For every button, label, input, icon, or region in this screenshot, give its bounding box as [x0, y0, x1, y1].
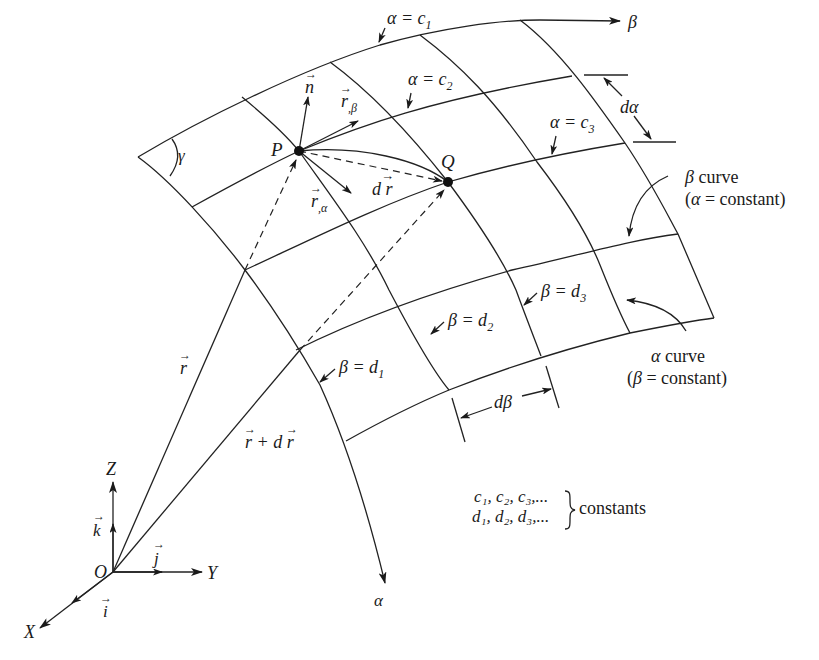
i-overarrow: →	[100, 591, 112, 605]
beta-d2-label: β = d2	[447, 310, 493, 334]
d-beta-extension-right	[546, 366, 559, 408]
beta-d1-label: β = d1	[338, 357, 384, 381]
alpha-curve-label-line2: (β = constant)	[627, 368, 727, 389]
point-p-label: P	[270, 139, 283, 160]
alpha-c2-label: α = c2	[408, 69, 453, 93]
alpha-curve-label-line1: α curve	[651, 346, 705, 366]
dr-overarrow: →	[381, 168, 394, 183]
d2-pointer-arrow	[431, 322, 444, 334]
normal-vector	[299, 97, 308, 151]
j-label: j	[152, 549, 159, 568]
c3-pointer-arrow	[552, 136, 556, 154]
z-axis-label: Z	[106, 459, 117, 479]
d-alpha-arrow-down	[634, 116, 651, 139]
c1-pointer-arrow	[379, 28, 385, 42]
r-overarrow: →	[179, 348, 191, 362]
point-q	[443, 177, 453, 187]
alpha-curve-pointer	[627, 300, 686, 331]
r-beta-vector	[299, 121, 358, 151]
r-vector-solid	[113, 270, 245, 572]
gamma-label: γ	[178, 146, 186, 165]
d-beta-arrow-left	[461, 407, 492, 418]
r-plus-dr-vector-solid	[113, 350, 300, 572]
d-alpha-label: dα	[620, 97, 639, 117]
d1-pointer-arrow	[320, 369, 335, 382]
position-vectors	[113, 160, 444, 572]
r-plus-dr-overarrow-2: →	[286, 422, 298, 436]
alpha-direction-label: α	[374, 591, 384, 610]
column-3	[330, 62, 541, 356]
j-overarrow: →	[153, 537, 165, 551]
beta-direction-label: β	[627, 12, 637, 32]
d-beta-extension-left	[452, 398, 465, 442]
constants-row-d: d₁, d₂, d₃,...	[472, 507, 549, 526]
constants-label: constants	[579, 498, 646, 518]
point-p	[294, 146, 304, 156]
r-vector-dashed	[245, 160, 296, 270]
normal-overarrow: →	[305, 67, 317, 81]
d-alpha-arrow-up	[604, 78, 622, 96]
d-beta-label: dβ	[494, 392, 512, 412]
constants-brace	[565, 491, 575, 529]
beta-curve-pointer	[629, 176, 668, 236]
alpha-c1-label: α = c1	[387, 8, 432, 32]
beta-curve-label-line2: (α = constant)	[685, 189, 786, 210]
y-axis-label: Y	[207, 563, 219, 583]
curvilinear-coordinates-diagram: γ Z Y X O k → j → i → β α α = c1 α = c2 …	[0, 0, 819, 660]
d-beta-arrow-right	[522, 389, 551, 396]
k-label: k	[93, 521, 101, 540]
alpha-c3-label: α = c3	[550, 112, 595, 136]
beta-curve-label-line1: β curve	[684, 167, 738, 187]
origin-label: O	[94, 562, 107, 582]
k-overarrow: →	[93, 509, 105, 523]
r-plus-dr-overarrow-1: →	[244, 422, 256, 436]
constants-row-c: c₁, c₂, c₃,...	[474, 487, 548, 506]
point-q-label: Q	[441, 151, 455, 172]
d3-pointer-arrow	[524, 293, 537, 305]
x-axis-label: X	[23, 622, 36, 642]
r-alpha-overarrow: →	[310, 181, 322, 195]
r-beta-overarrow: →	[340, 81, 352, 95]
c2-pointer-arrow	[408, 93, 411, 108]
beta-d3-label: β = d3	[540, 281, 586, 305]
gamma-angle-arc	[170, 139, 178, 176]
